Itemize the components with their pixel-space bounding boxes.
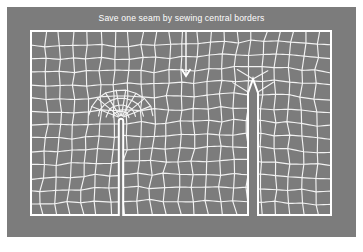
down-arrow-icon [182,30,191,76]
mesh-grid-lines [31,31,331,215]
mesh-diagram [0,0,363,252]
figure-root: Save one seam by sewing central borders [0,0,363,252]
